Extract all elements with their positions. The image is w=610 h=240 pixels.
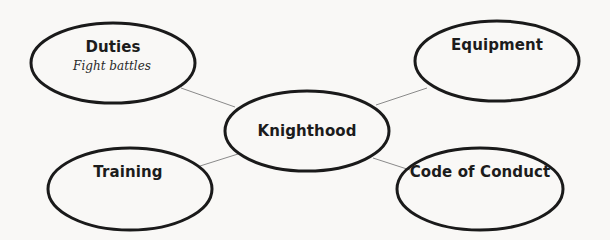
node-duties-note: Fight battles [73,59,151,73]
node-knighthood-label: Knighthood [257,122,356,140]
ellipse-equipment [415,21,579,101]
ellipse-training [48,148,212,230]
connector-duties-knighthood [181,88,235,107]
connector-knighthood-code-of-conduct [373,158,410,170]
node-code-of-conduct-label: Code of Conduct [410,163,550,181]
node-duties-label: Duties [85,38,140,56]
concept-web-diagram: Duties Fight battles Equipment Knighthoo… [0,0,610,240]
node-equipment-label: Equipment [451,36,543,54]
connector-training-knighthood [200,154,238,166]
ellipse-code-of-conduct [397,148,563,230]
connector-knighthood-equipment [376,88,427,105]
node-training-label: Training [93,163,162,181]
